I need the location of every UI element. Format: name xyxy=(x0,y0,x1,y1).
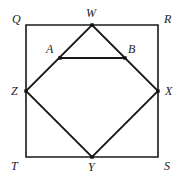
vertex-dot-w xyxy=(90,23,93,26)
vertex-dot-z xyxy=(24,89,27,92)
label-w: W xyxy=(86,7,96,19)
label-y: Y xyxy=(88,161,95,173)
label-q: Q xyxy=(12,13,21,25)
vertex-dots xyxy=(24,23,159,158)
figure-canvas xyxy=(0,0,182,181)
vertex-dot-x xyxy=(156,89,159,92)
geometry-figure: QWRABZXTYS xyxy=(0,0,182,181)
vertex-dot-a xyxy=(58,56,61,59)
label-z: Z xyxy=(11,85,18,97)
label-a: A xyxy=(46,43,53,55)
vertex-dot-b xyxy=(123,56,126,59)
label-r: R xyxy=(164,13,171,25)
label-s: S xyxy=(164,160,170,172)
label-b: B xyxy=(128,43,135,55)
label-x: X xyxy=(165,85,172,97)
label-t: T xyxy=(11,160,18,172)
vertex-dot-y xyxy=(90,155,93,158)
